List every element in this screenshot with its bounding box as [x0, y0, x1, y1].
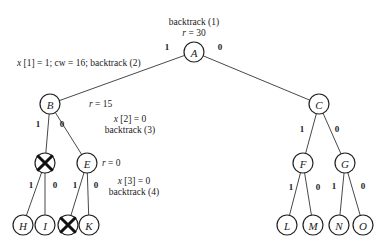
edge-label-c-f: 1 [300, 124, 305, 134]
ann-backtrack-3: backtrack (3) [105, 125, 155, 136]
node-label: N [334, 220, 343, 232]
edge-f-m [305, 173, 312, 215]
node-label: A [190, 47, 198, 59]
ann-backtrack-4: backtrack (4) [109, 187, 159, 198]
node-label: F [299, 158, 307, 170]
tree-node-b: B [40, 94, 60, 114]
node-label: H [18, 220, 28, 232]
tree-node-h: H [13, 215, 33, 235]
node-label: G [341, 158, 349, 170]
node-label: K [84, 220, 93, 232]
edge-label-g-n: 1 [332, 181, 337, 191]
tree-node-i: I [35, 215, 55, 235]
tree-node-j [58, 215, 78, 235]
ann-backtrack-1: backtrack (1) [169, 17, 219, 28]
tree-node-e: E [77, 153, 97, 173]
ann-r15: r = 15 [89, 99, 113, 109]
nodes-layer: ABCEFGHIKLMNO [13, 42, 373, 235]
edge-label-d-i: 0 [53, 180, 58, 190]
tree-node-g: G [335, 153, 355, 173]
backtracking-tree-diagram: 10101010101010 ABCEFGHIKLMNO backtrack (… [0, 0, 387, 251]
ann-x3: x [3] = 0 [117, 176, 151, 186]
edge-label-e-k: 0 [94, 180, 99, 190]
ann-r0: r = 0 [102, 158, 121, 168]
edge-label-c-g: 0 [335, 124, 340, 134]
tree-node-c: C [309, 94, 329, 114]
node-label: C [315, 99, 323, 111]
tree-node-m: M [303, 215, 323, 235]
edge-label-e-j: 1 [73, 180, 78, 190]
ann-r30: r = 30 [182, 28, 206, 38]
node-label: O [359, 220, 367, 232]
ann-x2: x [2] = 0 [113, 114, 147, 124]
edge-e-j [71, 173, 84, 216]
node-label: E [83, 158, 91, 170]
edge-a-c [203, 56, 310, 100]
edge-label-f-l: 1 [289, 182, 294, 192]
edge-f-l [289, 173, 300, 216]
edge-label-f-m: 0 [316, 182, 321, 192]
tree-node-k: K [79, 215, 99, 235]
edge-g-n [340, 173, 344, 215]
edges-layer [26, 55, 360, 215]
edge-label-b-d: 1 [36, 119, 41, 129]
edge-label-a-c: 0 [218, 42, 223, 52]
ann-x1: x [1] = 1; cw = 16; backtrack (2) [16, 58, 141, 69]
edge-label-b-e: 0 [60, 119, 65, 129]
node-label: M [307, 220, 318, 232]
edge-e-k [87, 173, 88, 215]
tree-node-f: F [293, 153, 313, 173]
edge-label-a-b: 1 [165, 42, 170, 52]
edge-b-d [46, 114, 49, 153]
node-label: L [283, 220, 290, 232]
node-label: B [47, 99, 54, 111]
tree-node-n: N [329, 215, 349, 235]
edge-label-d-h: 1 [29, 180, 34, 190]
tree-node-a: A [184, 42, 204, 62]
edge-label-g-o: 0 [361, 181, 366, 191]
tree-node-l: L [277, 215, 297, 235]
edge-d-h [26, 172, 41, 215]
tree-node-d [35, 153, 55, 173]
edge-g-o [348, 173, 360, 216]
edge-c-f [306, 114, 317, 154]
tree-node-o: O [353, 215, 373, 235]
